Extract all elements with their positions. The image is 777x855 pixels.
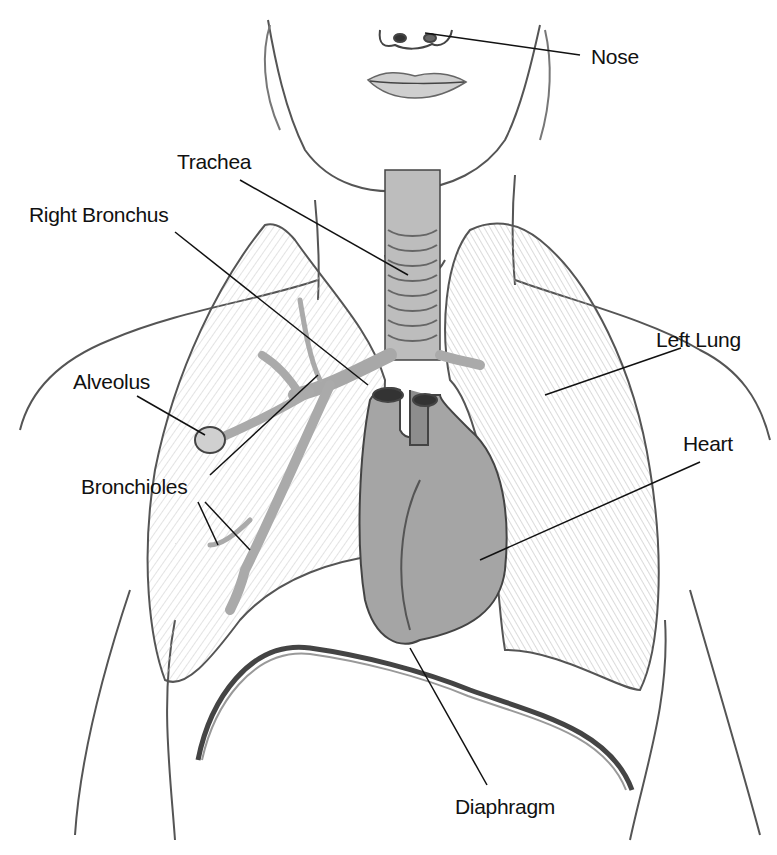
label-nose: Nose bbox=[591, 45, 639, 69]
diaphragm-drawing bbox=[198, 647, 632, 790]
mouth-drawing bbox=[368, 73, 466, 98]
respiratory-diagram: Nose Trachea Right Bronchus Alveolus Bro… bbox=[0, 0, 777, 855]
label-left-lung: Left Lung bbox=[656, 328, 741, 352]
right-lung bbox=[148, 224, 385, 682]
alveolus-drawing bbox=[195, 427, 225, 453]
label-bronchioles: Bronchioles bbox=[81, 475, 187, 499]
leader-nose bbox=[425, 33, 580, 55]
head bbox=[265, 20, 550, 191]
label-heart: Heart bbox=[683, 432, 733, 456]
label-alveolus: Alveolus bbox=[73, 370, 150, 394]
label-right-bronchus: Right Bronchus bbox=[29, 203, 168, 227]
label-diaphragm: Diaphragm bbox=[455, 795, 555, 819]
label-trachea: Trachea bbox=[177, 150, 251, 174]
anatomy-illustration bbox=[0, 0, 777, 855]
leader-diaphragm bbox=[410, 648, 487, 785]
trachea-drawing bbox=[385, 170, 440, 360]
nose-drawing bbox=[380, 30, 452, 49]
